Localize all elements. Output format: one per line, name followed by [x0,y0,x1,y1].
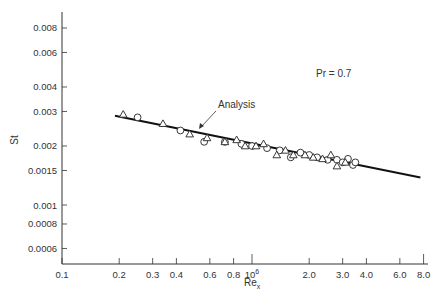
y-tick-label: 0.006 [33,47,57,58]
y-tick-label: 0.001 [33,200,57,211]
analysis-annotation: Analysis [218,99,255,110]
series-layer [115,111,420,178]
x-axis-label-main: Re [244,277,257,288]
y-tick-label: 0.0006 [28,243,57,254]
x-tick-label: 8.0 [417,269,430,280]
circle-marker-icon [134,114,141,121]
arrow-head-icon [199,123,204,129]
x-tick-label: 0.8 [227,269,240,280]
circle-marker-icon [352,159,359,166]
x-tick-label: 0.3 [146,269,159,280]
x-tick-label: 0.2 [113,269,126,280]
x-tick-label: 4.0 [360,269,373,280]
x-axis-label: Rex [244,277,261,290]
x-tick-label: 2.0 [303,269,316,280]
circle-marker-icon [177,127,184,134]
x-ticks: 0.10.20.30.40.60.81062.03.04.06.08.0 [55,254,430,280]
y-tick-label: 0.003 [33,106,57,117]
analysis-arrow [201,111,216,127]
x-tick-label: 0.4 [170,269,183,280]
chart-canvas: 0.0080.0060.0040.0030.0020.00150.0010.00… [0,0,445,307]
x-tick-label: 0.6 [203,269,216,280]
triangle-marker-icon [119,111,127,118]
x-axis-label-sub: x [257,283,261,290]
y-tick-label: 0.002 [33,140,57,151]
x-tick-label: 3.0 [336,269,349,280]
y-tick-label: 0.0015 [28,165,57,176]
triangle-marker-icon [159,120,167,127]
prandtl-annotation: Pr = 0.7 [316,68,352,79]
x-tick-label: 6.0 [393,269,406,280]
y-tick-label: 0.008 [33,22,57,33]
y-tick-label: 0.004 [33,81,57,92]
y-ticks: 0.0080.0060.0040.0030.0020.00150.0010.00… [28,22,67,253]
triangle-marker-icon [260,140,268,147]
x-tick-label: 0.1 [55,269,68,280]
y-axis-label: St [9,135,20,145]
y-tick-label: 0.0008 [28,218,57,229]
triangle-marker-icon [327,151,335,158]
